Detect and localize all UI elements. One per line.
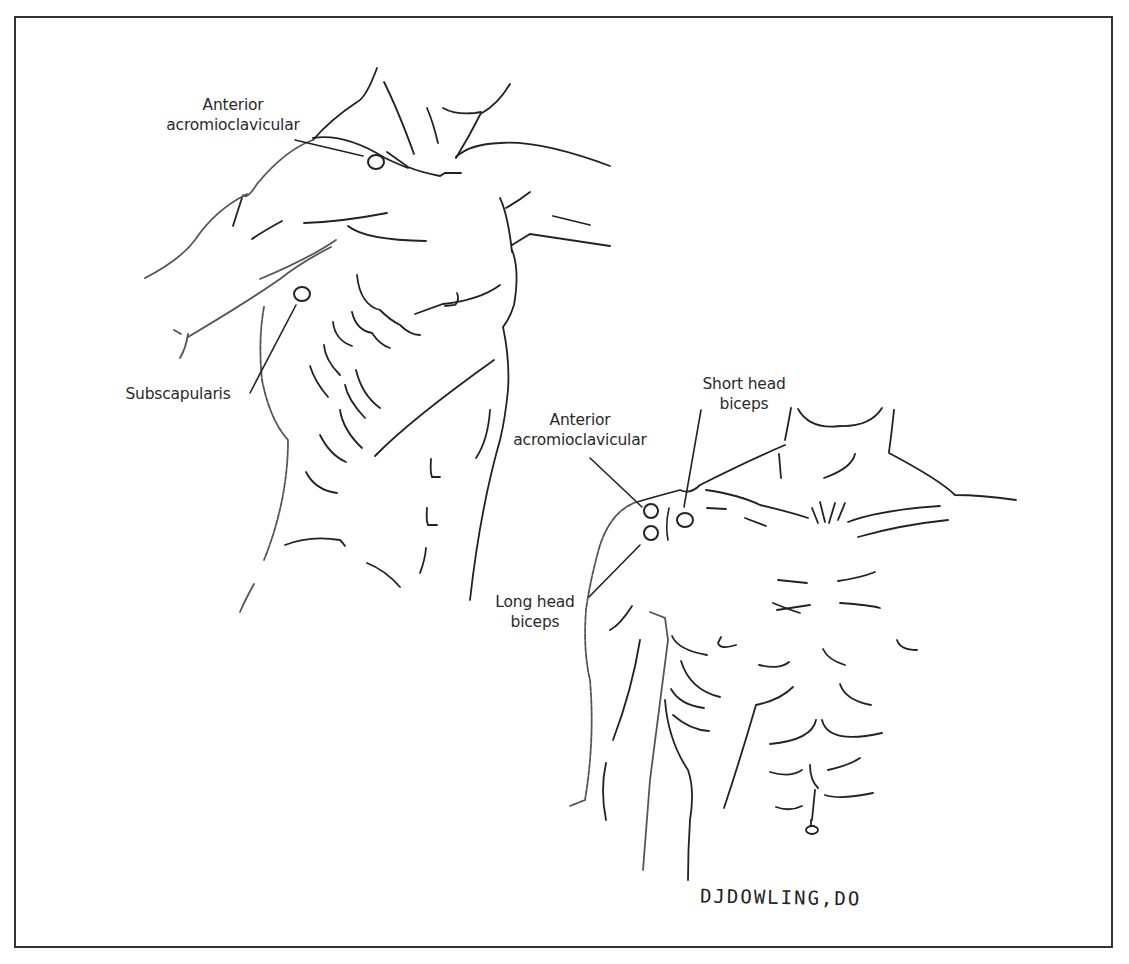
label-line2: biceps <box>480 612 590 632</box>
label-anterior-acromioclavicular-upper: Anterior acromioclavicular <box>158 95 308 135</box>
marker-subscapularis <box>294 287 310 301</box>
label-long-head-biceps: Long head biceps <box>480 592 590 632</box>
label-anterior-acromioclavicular-lower: Anterior acromioclavicular <box>505 410 655 450</box>
upper-left-torso-drawing <box>145 68 610 612</box>
artist-signature: DJDOWLING,DO <box>700 885 862 910</box>
marker-long-head-biceps <box>644 526 658 540</box>
marker-short-head-biceps <box>677 513 693 527</box>
label-line2: acromioclavicular <box>158 115 308 135</box>
marker-anterior-acromioclavicular-2 <box>644 504 658 518</box>
label-short-head-biceps: Short head biceps <box>694 374 794 414</box>
label-line1: Long head <box>480 592 590 612</box>
label-line1: Short head <box>694 374 794 394</box>
label-line2: acromioclavicular <box>505 430 655 450</box>
marker-anterior-acromioclavicular-1 <box>368 155 384 169</box>
lower-right-torso-drawing <box>570 408 1016 880</box>
label-line1: Subscapularis <box>108 384 248 404</box>
anatomical-sketch <box>0 0 1129 964</box>
label-line1: Anterior <box>158 95 308 115</box>
upper-left-markers <box>250 140 384 393</box>
label-line2: biceps <box>694 394 794 414</box>
label-subscapularis: Subscapularis <box>108 384 248 404</box>
label-line1: Anterior <box>505 410 655 430</box>
